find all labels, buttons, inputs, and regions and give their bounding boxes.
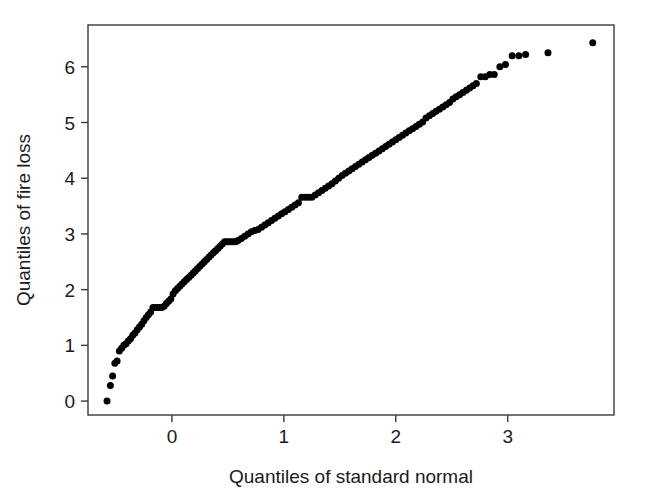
y-axis-title: Quantiles of fire loss: [13, 134, 34, 306]
x-tick-label: 1: [279, 426, 290, 447]
data-point: [515, 52, 522, 59]
y-tick-label: 4: [64, 168, 75, 189]
x-tick-label: 2: [390, 426, 401, 447]
data-point: [544, 49, 551, 56]
y-tick-label: 0: [64, 391, 75, 412]
x-axis-title: Quantiles of standard normal: [229, 466, 473, 487]
plot-canvas: 0123 0123456 Quantiles of standard norma…: [0, 0, 649, 497]
data-point: [104, 398, 111, 405]
data-point: [522, 51, 529, 58]
data-point: [509, 52, 516, 59]
data-point: [491, 71, 498, 78]
data-point: [589, 39, 596, 46]
y-tick-label: 2: [64, 280, 75, 301]
x-tick-label: 3: [502, 426, 513, 447]
data-point: [107, 382, 114, 389]
data-point: [502, 61, 509, 68]
y-tick-label: 6: [64, 57, 75, 78]
y-tick-label: 3: [64, 224, 75, 245]
figure-background: [0, 0, 649, 497]
y-tick-label: 5: [64, 113, 75, 134]
data-point: [109, 373, 116, 380]
y-tick-label: 1: [64, 335, 75, 356]
qq-plot-figure: 0123 0123456 Quantiles of standard norma…: [0, 0, 649, 497]
data-point: [114, 357, 121, 364]
x-tick-label: 0: [167, 426, 178, 447]
data-point: [473, 80, 480, 87]
